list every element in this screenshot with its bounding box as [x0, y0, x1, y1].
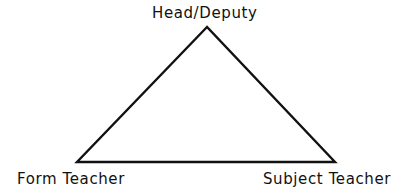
triangle-shape — [0, 0, 412, 193]
vertex-label-head-deputy: Head/Deputy — [152, 4, 256, 22]
vertex-label-subject-teacher: Subject Teacher — [263, 170, 391, 188]
vertex-label-form-teacher: Form Teacher — [17, 170, 125, 188]
triangle-outline — [77, 27, 335, 162]
triangle-diagram: Head/Deputy Form Teacher Subject Teacher — [0, 0, 412, 193]
